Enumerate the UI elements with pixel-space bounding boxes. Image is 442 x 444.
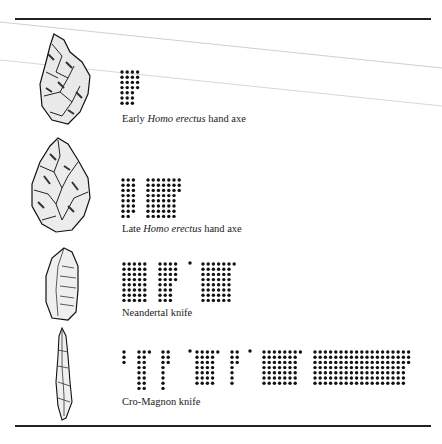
early-hand-axe-dots (0, 0, 442, 444)
caption-neandertal-knife: Neandertal knife (122, 307, 192, 318)
caption-cro-magnon-knife: Cro-Magnon knife (122, 396, 200, 407)
caption-early-homo-erectus: Early Homo erectus hand axe (122, 113, 246, 124)
caption-late-homo-erectus: Late Homo erectus hand axe (122, 223, 242, 234)
